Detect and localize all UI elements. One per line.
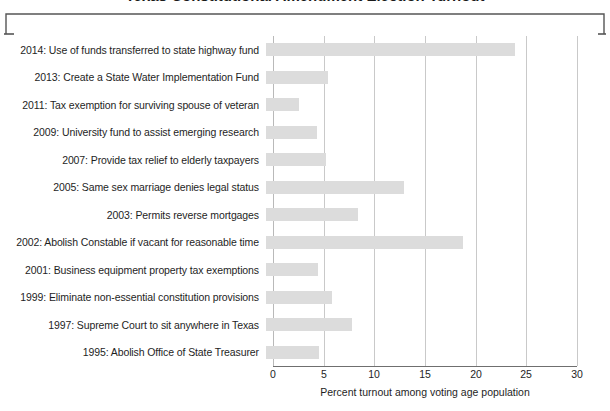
- chart-title-clipped: Texas Constitutional Amendment Election …: [0, 0, 610, 7]
- x-tick-label: 5: [321, 368, 327, 380]
- bar[interactable]: [266, 71, 328, 84]
- table-row: 2003: Permits reverse mortgages: [0, 201, 610, 229]
- table-row: 2007: Provide tax relief to elderly taxp…: [0, 146, 610, 174]
- bar[interactable]: [266, 208, 358, 221]
- bar[interactable]: [266, 153, 326, 166]
- category-label: 1997: Supreme Court to sit anywhere in T…: [0, 319, 266, 331]
- bar[interactable]: [266, 263, 318, 276]
- bar-chart: 2014: Use of funds transferred to state …: [0, 36, 610, 411]
- bar-lane: [266, 339, 610, 367]
- category-label: 1999: Eliminate non-essential constituti…: [0, 291, 266, 303]
- chart-title-text: Texas Constitutional Amendment Election …: [0, 0, 610, 4]
- table-row: 2009: University fund to assist emerging…: [0, 119, 610, 147]
- bar-lane: [266, 174, 610, 202]
- selection-bracket: [4, 12, 606, 36]
- bar[interactable]: [266, 346, 319, 359]
- x-tick-label: 0: [270, 368, 276, 380]
- x-axis-ticks: 051015202530: [0, 368, 610, 384]
- x-tick-label: 15: [419, 368, 431, 380]
- bar[interactable]: [266, 43, 515, 56]
- bar[interactable]: [266, 236, 463, 249]
- x-tick-label: 30: [571, 368, 583, 380]
- bar-lane: [266, 91, 610, 119]
- category-label: 2009: University fund to assist emerging…: [0, 126, 266, 138]
- bar-lane: [266, 284, 610, 312]
- x-axis-line: [273, 366, 577, 367]
- bar-lane: [266, 64, 610, 92]
- table-row: 1997: Supreme Court to sit anywhere in T…: [0, 311, 610, 339]
- x-axis-label: Percent turnout among voting age populat…: [273, 386, 577, 398]
- category-label: 2002: Abolish Constable if vacant for re…: [0, 236, 266, 248]
- bar[interactable]: [266, 291, 332, 304]
- x-tick-label: 20: [470, 368, 482, 380]
- table-row: 2002: Abolish Constable if vacant for re…: [0, 229, 610, 257]
- bar-lane: [266, 36, 610, 64]
- x-tick-label: 10: [368, 368, 380, 380]
- bar[interactable]: [266, 318, 352, 331]
- category-label: 2013: Create a State Water Implementatio…: [0, 71, 266, 83]
- category-label: 1995: Abolish Office of State Treasurer: [0, 346, 266, 358]
- bar-lane: [266, 146, 610, 174]
- table-row: 1995: Abolish Office of State Treasurer: [0, 339, 610, 367]
- category-label: 2005: Same sex marriage denies legal sta…: [0, 181, 266, 193]
- x-tick-label: 25: [520, 368, 532, 380]
- bar-lane: [266, 119, 610, 147]
- bar-lane: [266, 311, 610, 339]
- category-label: 2003: Permits reverse mortgages: [0, 209, 266, 221]
- table-row: 1999: Eliminate non-essential constituti…: [0, 284, 610, 312]
- category-label: 2011: Tax exemption for surviving spouse…: [0, 99, 266, 111]
- bar-lane: [266, 201, 610, 229]
- table-row: 2011: Tax exemption for surviving spouse…: [0, 91, 610, 119]
- bar[interactable]: [266, 181, 404, 194]
- bar-rows: 2014: Use of funds transferred to state …: [0, 36, 610, 366]
- bar[interactable]: [266, 126, 317, 139]
- table-row: 2013: Create a State Water Implementatio…: [0, 64, 610, 92]
- category-label: 2014: Use of funds transferred to state …: [0, 44, 266, 56]
- bar-lane: [266, 229, 610, 257]
- category-label: 2007: Provide tax relief to elderly taxp…: [0, 154, 266, 166]
- table-row: 2014: Use of funds transferred to state …: [0, 36, 610, 64]
- table-row: 2005: Same sex marriage denies legal sta…: [0, 174, 610, 202]
- bar-lane: [266, 256, 610, 284]
- bar[interactable]: [266, 98, 299, 111]
- table-row: 2001: Business equipment property tax ex…: [0, 256, 610, 284]
- category-label: 2001: Business equipment property tax ex…: [0, 264, 266, 276]
